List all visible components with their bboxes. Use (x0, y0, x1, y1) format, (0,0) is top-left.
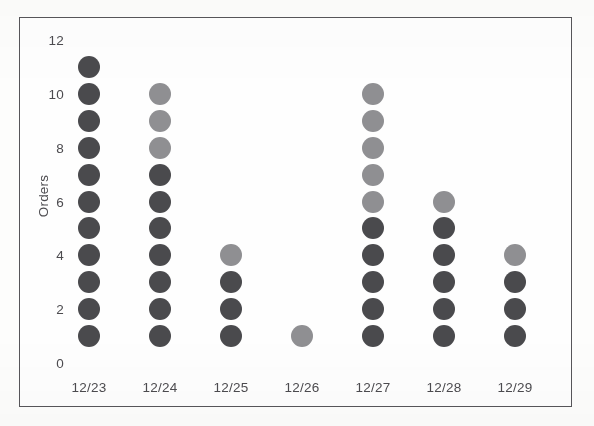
y-axis-tick-4: 4 (24, 248, 64, 263)
chart-frame-border (19, 17, 572, 407)
y-axis-tick-6: 6 (24, 194, 64, 209)
x-axis-tick-12-29: 12/29 (498, 380, 533, 395)
y-axis-tick-10: 10 (24, 86, 64, 101)
x-axis-tick-12-24: 12/24 (143, 380, 178, 395)
y-axis-tick-8: 8 (24, 140, 64, 155)
y-axis-tick-2: 2 (24, 302, 64, 317)
y-axis-tick-0: 0 (24, 356, 64, 371)
x-axis-tick-12-23: 12/23 (72, 380, 107, 395)
x-axis-tick-12-28: 12/28 (427, 380, 462, 395)
x-axis-tick-12-26: 12/26 (285, 380, 320, 395)
dot-plot-figure: Orders 024681012 12/2312/2412/2512/2612/… (0, 0, 594, 426)
x-axis-tick-12-25: 12/25 (214, 380, 249, 395)
y-axis-tick-12: 12 (24, 33, 64, 48)
x-axis-tick-12-27: 12/27 (356, 380, 391, 395)
